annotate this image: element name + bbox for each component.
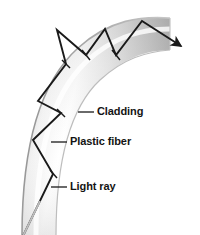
label-light-ray: Light ray [70, 181, 116, 192]
label-plastic-fiber: Plastic fiber [70, 136, 131, 147]
label-cladding: Cladding [97, 106, 143, 117]
fiber-optic-diagram [0, 0, 200, 235]
figure-container: Cladding Plastic fiber Light ray [0, 0, 200, 235]
